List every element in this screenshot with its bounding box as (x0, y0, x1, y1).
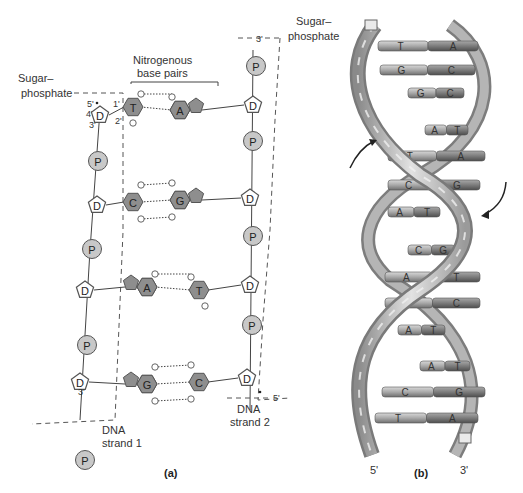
rung-left-letter: G (397, 65, 405, 76)
phosphate-group: P (83, 240, 102, 259)
strand1: DDDDPPPP (71, 106, 108, 470)
atom-circle-icon (138, 182, 144, 188)
base-C: C (123, 193, 143, 210)
carbon-2-label: 2' (115, 116, 122, 126)
hydrogen-bond (141, 217, 172, 219)
strand-bottom-right-end (459, 433, 471, 443)
rotation-arrow-right-head (481, 210, 489, 219)
strand1-label-2: strand 1 (102, 437, 142, 449)
base-letter: A (176, 105, 184, 117)
strand2-dashed-left (258, 38, 290, 400)
hydrogen-bond (141, 183, 172, 185)
base-G: G (170, 188, 204, 209)
base-pair: CG (106, 180, 241, 222)
sugar-symbol: D (96, 110, 104, 122)
carbon-1-label: 1' (113, 99, 120, 109)
hydrogen-bond (155, 382, 191, 384)
base-T: T (123, 98, 143, 126)
helix-3prime-label: 3' (460, 464, 468, 476)
phosphate-symbol: P (94, 156, 101, 168)
sugar-phosphate-label-left-2: phosphate (21, 87, 72, 99)
base-letter: G (176, 195, 185, 207)
rung-left-letter: A (403, 272, 410, 283)
atom-circle-icon (130, 120, 136, 126)
base-G: G (123, 372, 157, 393)
sugar-phosphate-label-right-1: Sugar– (296, 15, 332, 27)
panel-b: TAGCGCATTACGATCGATGCATATCGTA 5' 3' (b) (350, 20, 506, 479)
rung-left-letter: A (428, 361, 435, 372)
base-pair: TA (109, 91, 244, 126)
base-letter: C (195, 377, 203, 389)
deoxyribose-sugar: D (241, 189, 258, 205)
rung-left-letter: T (397, 41, 403, 52)
deoxyribose-sugar: D (76, 281, 93, 297)
phosphate-symbol: P (248, 320, 255, 332)
base-letter: T (196, 285, 203, 297)
strand1-label-1: DNA (102, 424, 126, 436)
panel-a: Sugar– phosphate Sugar– phosphate Nitrog… (18, 15, 339, 479)
atom-circle-icon (138, 91, 144, 97)
carbon-5-label: 5' (87, 99, 94, 109)
atom-circle-icon (152, 398, 158, 404)
atom-circle-icon (188, 274, 194, 280)
strand2-5prime-dot (259, 391, 262, 394)
rung-right-letter: A (449, 413, 456, 424)
rung-right-letter: A (450, 41, 457, 52)
strand2-label-2: strand 2 (230, 416, 270, 428)
sugar-symbol: D (246, 193, 254, 205)
hydrogen-bond (155, 365, 191, 367)
strand2-5prime-label: 5' (273, 393, 280, 403)
base-C: C (189, 373, 209, 390)
rung-right-letter: T (424, 207, 430, 218)
rung-left-letter: A (405, 325, 412, 336)
rung-right-letter: T (430, 325, 436, 336)
base-pair-rung: AT (388, 207, 440, 218)
panel-a-caption: (a) (164, 467, 178, 479)
base-pair-rung: CG (408, 245, 455, 256)
sugar-phosphate-label-left-1: Sugar– (18, 72, 54, 84)
pentagon-ring-icon (188, 188, 203, 203)
rung-left-letter: A (431, 125, 438, 136)
phosphate-symbol: P (252, 61, 259, 73)
phosphate-group: P (244, 227, 263, 246)
rung-left-letter: C (402, 387, 409, 398)
atom-circle-icon (188, 362, 194, 368)
phosphate-symbol: P (249, 231, 256, 243)
base-T: T (189, 281, 209, 309)
rung-right-letter: T (454, 125, 460, 136)
atom-circle-icon (202, 303, 208, 309)
base-letter: G (143, 379, 152, 391)
sugar-phosphate-label-right-2: phosphate (288, 30, 339, 42)
sugar-symbol: D (81, 285, 89, 297)
phosphate-symbol: P (249, 136, 256, 148)
base-pair-rung: CG (382, 387, 485, 398)
strand1-3prime-label: 3' (78, 387, 85, 397)
rung-left-letter: G (417, 88, 425, 99)
hydrogen-bond (141, 107, 172, 110)
base-pair-rung: GC (380, 65, 475, 76)
base-pair-rung: TA (375, 413, 478, 424)
base-pair-rung: TA (378, 41, 478, 52)
rung-right-letter: C (446, 88, 453, 99)
base-pair-rung: AT (398, 325, 445, 336)
strand-top-left-end (365, 20, 377, 30)
rung-left-letter: T (395, 413, 401, 424)
rung-right-letter: C (448, 65, 455, 76)
atom-circle-icon (169, 94, 175, 100)
base-pairs-bracket (131, 82, 218, 86)
deoxyribose-sugar: D (88, 196, 105, 212)
strand2-label-1: DNA (237, 403, 261, 415)
hydrogen-bond (155, 287, 191, 290)
atom-circle-icon (152, 364, 158, 370)
phosphate-group: P (247, 57, 266, 76)
c5-dot (96, 102, 99, 105)
rung-right-letter: C (453, 298, 460, 309)
deoxyribose-sugar: D (91, 106, 108, 122)
base-letter: T (130, 102, 137, 114)
atom-circle-icon (169, 180, 175, 186)
atom-circle-icon (138, 216, 144, 222)
deoxyribose-sugar: D (238, 369, 255, 385)
phosphate-group: P (78, 336, 97, 355)
phosphate-group: P (244, 132, 263, 151)
phosphate-group: P (76, 451, 95, 470)
